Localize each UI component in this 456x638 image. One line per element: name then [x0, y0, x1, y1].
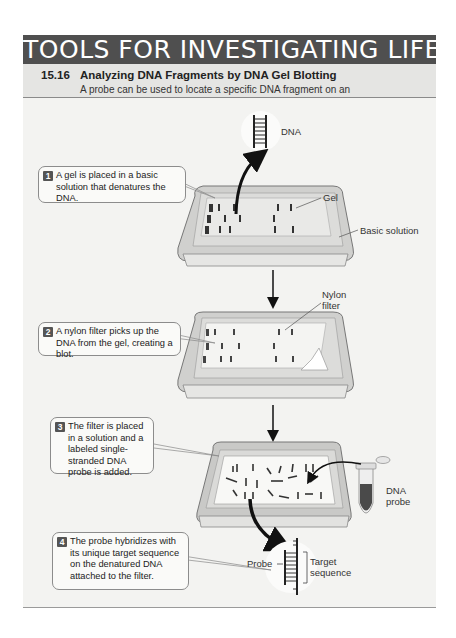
- gel-tray-2: [178, 312, 354, 398]
- label-dna-probe-1: DNA: [386, 485, 406, 496]
- step-2-text: A nylon filter picks up the DNA from the…: [56, 326, 173, 359]
- step-2-number: 2: [43, 327, 53, 337]
- step-4-text: The probe hybridizes with its unique tar…: [70, 536, 179, 581]
- step-2-callout: 2 A nylon filter picks up the DNA from t…: [38, 322, 181, 356]
- label-nylon-filter-1: Nylon: [322, 289, 346, 300]
- hybridization-tray: [197, 442, 352, 527]
- step-1-number: 1: [43, 171, 53, 181]
- dna-probe-tube-icon: [356, 457, 390, 514]
- label-dna-probe-2: probe: [386, 496, 410, 507]
- figure-header: 15.16 Analyzing DNA Fragments by DNA Gel…: [23, 64, 436, 98]
- step-3-number: 3: [55, 422, 65, 432]
- dna-double-strand-icon: [241, 111, 281, 151]
- diagram-area: 1 A gel is placed in a basic solution th…: [23, 98, 436, 608]
- step-1-callout: 1 A gel is placed in a basic solution th…: [38, 166, 186, 203]
- step-3-callout: 3 The filter is placed in a solution and…: [50, 417, 154, 474]
- step-3-text: The filter is placed in a solution and a…: [68, 421, 143, 477]
- label-dna: DNA: [281, 126, 301, 137]
- label-basic-solution: Basic solution: [360, 225, 419, 236]
- figure-title: Analyzing DNA Fragments by DNA Gel Blott…: [80, 69, 337, 81]
- label-gel: Gel: [323, 192, 338, 203]
- label-probe: Probe: [247, 558, 272, 569]
- label-nylon-filter-2: filter: [322, 300, 340, 311]
- step-4-callout: 4 The probe hybridizes with its unique t…: [52, 532, 189, 590]
- step-1-text: A gel is placed in a basic solution that…: [56, 170, 166, 203]
- figure-number: 15.16: [41, 69, 70, 81]
- label-target-1: Target: [310, 556, 336, 567]
- step-4-number: 4: [57, 537, 67, 547]
- section-banner: TOOLS FOR INVESTIGATING LIFE: [23, 35, 436, 64]
- label-target-2: sequence: [310, 567, 351, 578]
